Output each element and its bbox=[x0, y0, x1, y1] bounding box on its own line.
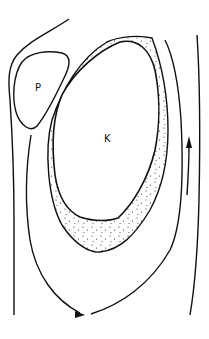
right-up-arrow-icon bbox=[186, 136, 192, 148]
outer-right-boundary bbox=[190, 35, 200, 315]
label-k: K bbox=[104, 134, 111, 144]
diagram-svg bbox=[0, 0, 209, 339]
label-p: P bbox=[35, 83, 41, 93]
bottom-right-arrow-icon bbox=[75, 311, 85, 318]
diagram-canvas: P K bbox=[0, 0, 209, 339]
right-arrow-shaft bbox=[187, 145, 189, 195]
